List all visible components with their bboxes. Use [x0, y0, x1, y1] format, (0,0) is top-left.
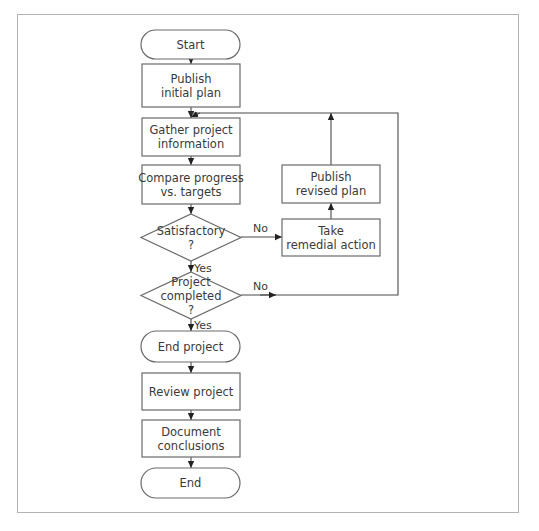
node-label: information: [158, 137, 224, 151]
edge-label-satisfactory-no: No: [253, 222, 268, 235]
nodes: StartPublishinitial planGather projectin…: [138, 30, 380, 498]
node-label: Document: [161, 425, 221, 439]
node-document: Documentconclusions: [142, 420, 240, 457]
node-review: Review project: [142, 373, 240, 410]
node-label: Publish: [171, 72, 212, 86]
node-completed: Projectcompleted?: [141, 272, 241, 319]
node-label: remedial action: [286, 238, 376, 252]
node-label: Satisfactory: [157, 224, 226, 238]
node-label: Take: [317, 224, 344, 238]
node-label: initial plan: [161, 86, 221, 100]
node-end: End: [141, 468, 240, 498]
node-end-project: End project: [141, 331, 240, 362]
node-label: Gather project: [149, 123, 233, 137]
edge-loop-to-gather: [191, 113, 200, 117]
node-label: End: [180, 476, 202, 490]
node-publish-initial: Publishinitial plan: [142, 64, 240, 107]
node-label: conclusions: [158, 439, 225, 453]
node-label: Compare progress: [138, 171, 243, 185]
node-label: Project: [171, 275, 211, 289]
node-satisfactory: Satisfactory?: [141, 214, 241, 261]
node-start: Start: [141, 30, 240, 59]
node-label: vs. targets: [160, 185, 221, 199]
node-label: End project: [158, 340, 224, 354]
edge-label-completed-yes: Yes: [193, 319, 212, 332]
edge-label-satisfactory-yes: Yes: [193, 262, 212, 275]
edge-label-completed-no: No: [253, 280, 268, 293]
flowchart: No Yes No Yes StartPublishinitial planGa…: [0, 0, 539, 531]
node-remedial: Takeremedial action: [282, 219, 380, 256]
node-label: ?: [188, 238, 194, 252]
node-label: revised plan: [296, 184, 366, 198]
node-label: Start: [176, 38, 205, 52]
node-label: Publish: [311, 170, 352, 184]
node-compare: Compare progressvs. targets: [138, 165, 243, 204]
node-label: completed: [160, 289, 221, 303]
node-label: ?: [188, 303, 194, 317]
node-label: Review project: [149, 385, 234, 399]
node-publish-revised: Publishrevised plan: [282, 165, 380, 203]
node-gather: Gather projectinformation: [142, 118, 240, 156]
